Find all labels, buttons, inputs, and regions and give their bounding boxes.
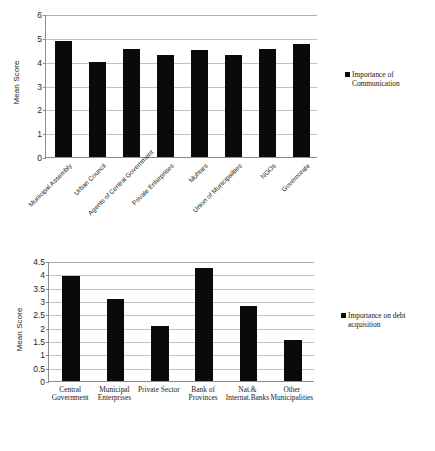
- x-tick-label: Municipal Enterprises: [89, 386, 139, 403]
- y-tick-mark: [46, 342, 49, 343]
- bar: [195, 268, 213, 381]
- gridline: [46, 15, 317, 16]
- y-tick-mark: [46, 302, 49, 303]
- bar: [62, 276, 80, 381]
- bar: [107, 299, 125, 381]
- y-tick-label: 1: [37, 130, 42, 139]
- y-tick-mark: [43, 158, 46, 159]
- gridline: [46, 87, 317, 88]
- legend-bottom: Importance on debt acquisition: [341, 311, 405, 330]
- y-tick-mark: [43, 15, 46, 16]
- y-tick-label: 2.5: [33, 311, 45, 320]
- legend-label: Importance on debt acquisition: [348, 311, 405, 330]
- bar: [55, 41, 72, 157]
- gridline: [46, 134, 317, 135]
- legend-top: Importance of Communication: [345, 70, 400, 89]
- gridline: [49, 329, 314, 330]
- y-tick-mark: [46, 275, 49, 276]
- chart-debt-acquisition: Mean Score 00.511.522.533.544.5 Importan…: [0, 232, 435, 451]
- y-tick-mark: [46, 329, 49, 330]
- gridline: [49, 302, 314, 303]
- y-tick-mark: [43, 63, 46, 64]
- legend-marker-icon: [345, 72, 350, 77]
- y-tick-label: 4.5: [33, 258, 45, 267]
- y-tick-mark: [43, 134, 46, 135]
- gridline: [46, 39, 317, 40]
- gridline: [49, 262, 314, 263]
- legend-label: Importance of Communication: [352, 70, 400, 89]
- y-tick-mark: [46, 369, 49, 370]
- y-tick-label: 3: [37, 82, 42, 91]
- y-tick-mark: [43, 39, 46, 40]
- y-tick-label: 0: [40, 378, 45, 387]
- y-tick-mark: [46, 355, 49, 356]
- gridline: [46, 110, 317, 111]
- y-tick-label: 1: [40, 351, 45, 360]
- bar: [293, 44, 310, 157]
- y-tick-label: 6: [37, 11, 42, 20]
- y-tick-mark: [46, 262, 49, 263]
- bar: [259, 49, 276, 157]
- y-tick-label: 3: [40, 298, 45, 307]
- x-tick-label: Central Government: [45, 386, 95, 403]
- y-tick-label: 5: [37, 35, 42, 44]
- y-tick-label: 4: [40, 271, 45, 280]
- bar: [123, 49, 140, 157]
- y-tick-label: 3.5: [33, 284, 45, 293]
- gridline: [49, 369, 314, 370]
- plot-area-bottom: 00.511.522.533.544.5: [48, 262, 314, 382]
- y-tick-mark: [46, 315, 49, 316]
- y-tick-label: 2: [40, 324, 45, 333]
- gridline: [49, 355, 314, 356]
- bar: [191, 50, 208, 157]
- y-tick-mark: [46, 289, 49, 290]
- gridline: [49, 342, 314, 343]
- y-tick-label: 2: [37, 106, 42, 115]
- legend-marker-icon: [341, 313, 346, 318]
- bar: [284, 340, 302, 381]
- y-axis-title-bottom: Mean Score: [15, 300, 24, 360]
- plot-area-top: 0123456: [45, 15, 317, 158]
- x-tick-label: Nat.& Internat.Banks: [222, 386, 272, 403]
- x-tick-label: Bank of Provinces: [178, 386, 228, 403]
- bar: [240, 306, 258, 381]
- bar: [89, 62, 106, 157]
- chart-communication: Mean Score 0123456 Importance of Communi…: [0, 0, 435, 230]
- bar: [225, 55, 242, 157]
- y-axis-title-top: Mean Score: [12, 53, 21, 113]
- gridline: [49, 315, 314, 316]
- gridline: [46, 63, 317, 64]
- bar: [157, 55, 174, 157]
- y-tick-label: 4: [37, 58, 42, 67]
- x-tick-label: Private Sector: [134, 386, 184, 394]
- gridline: [49, 289, 314, 290]
- x-tick-label: Other Municipalities: [267, 386, 317, 403]
- y-tick-mark: [43, 87, 46, 88]
- y-tick-mark: [46, 382, 49, 383]
- gridline: [49, 275, 314, 276]
- y-tick-label: 1.5: [33, 338, 45, 347]
- bar: [151, 326, 169, 381]
- y-tick-label: 0: [37, 154, 42, 163]
- y-tick-label: 0.5: [33, 364, 45, 373]
- y-tick-mark: [43, 110, 46, 111]
